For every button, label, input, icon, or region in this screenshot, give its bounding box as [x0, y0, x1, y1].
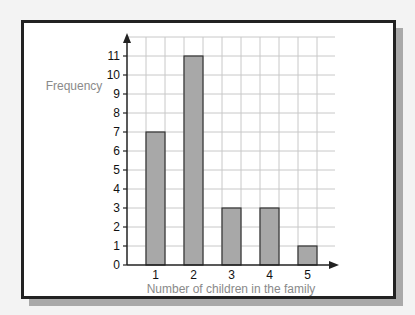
bars [146, 56, 317, 265]
y-tick-label: 1 [113, 239, 120, 253]
y-tick-label: 8 [113, 106, 120, 120]
bar-3 [222, 208, 241, 265]
y-tick-labels: 01234567891011 [107, 49, 127, 272]
x-axis-title: Number of children in the family [147, 282, 316, 296]
y-tick-label: 10 [107, 68, 121, 82]
y-tick-label: 2 [113, 220, 120, 234]
y-tick-label: 3 [113, 201, 120, 215]
bar-chart: 01234567891011 12345 Frequency Number of… [0, 0, 415, 315]
bar-1 [146, 132, 165, 265]
y-tick-label: 9 [113, 87, 120, 101]
y-tick-label: 7 [113, 125, 120, 139]
y-tick-label: 6 [113, 144, 120, 158]
x-tick-label: 5 [304, 268, 311, 282]
bar-2 [184, 56, 203, 265]
x-tick-label: 3 [228, 268, 235, 282]
x-tick-label: 1 [152, 268, 159, 282]
y-tick-label: 11 [108, 49, 121, 63]
y-tick-label: 4 [113, 182, 120, 196]
y-tick-label: 0 [113, 258, 120, 272]
x-tick-label: 4 [266, 268, 273, 282]
y-axis-title: Frequency [46, 79, 103, 93]
y-tick-label: 5 [113, 163, 120, 177]
bar-4 [260, 208, 279, 265]
x-tick-label: 2 [190, 268, 197, 282]
y-axis-arrow-icon [123, 33, 131, 43]
x-tick-labels: 12345 [152, 268, 311, 282]
x-axis-arrow-icon [329, 261, 339, 269]
bar-5 [298, 246, 317, 265]
